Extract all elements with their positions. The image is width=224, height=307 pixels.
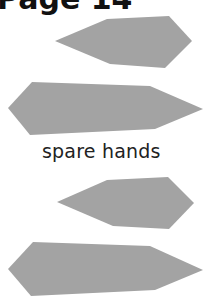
spare-hands-caption: spare hands bbox=[42, 139, 161, 163]
short-clock-hand-shape bbox=[57, 177, 194, 229]
long-clock-hand-shape bbox=[8, 82, 203, 135]
long-clock-hand-shape bbox=[8, 242, 203, 296]
short-clock-hand-shape bbox=[55, 16, 192, 68]
